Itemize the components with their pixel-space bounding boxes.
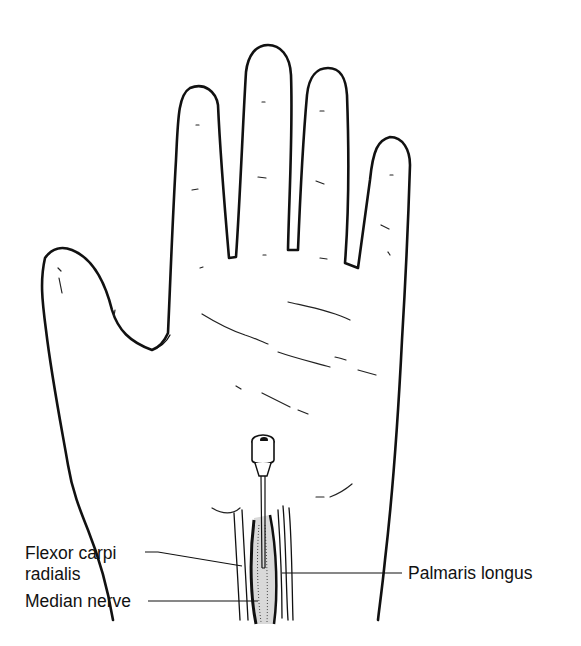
median-nerve xyxy=(251,515,277,624)
palm-creases xyxy=(114,302,376,414)
leader-flexor-carpi-radialis xyxy=(145,552,242,566)
finger-creases xyxy=(58,102,393,293)
label-median-nerve: Median nerve xyxy=(25,591,131,611)
hand-anatomy-figure: Flexor carpi radialis Median nerve Palma… xyxy=(0,0,581,646)
label-flexor-carpi-radialis-line1: Flexor carpi xyxy=(25,543,116,563)
palmaris-longus-tendon xyxy=(278,506,293,620)
hand-outline xyxy=(42,45,410,620)
label-flexor-carpi-radialis-line2: radialis xyxy=(25,564,81,584)
label-palmaris-longus: Palmaris longus xyxy=(408,563,533,583)
wrist-creases xyxy=(212,484,352,513)
